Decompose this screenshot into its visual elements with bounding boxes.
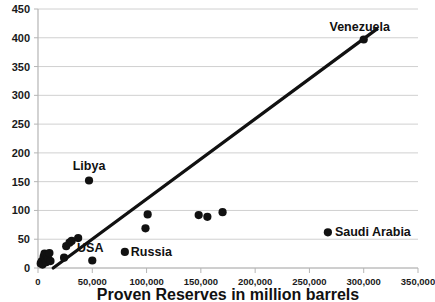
y-tick-label: 350 (12, 61, 30, 73)
data-point (324, 228, 332, 236)
chart-canvas: 050100150200250300350400450 050,000100,0… (0, 0, 435, 302)
point-label-saudi-arabia: Saudi Arabia (335, 225, 412, 239)
y-tick-label: 150 (12, 176, 30, 188)
x-axis-title: Proven Reserves in million barrels (97, 286, 359, 302)
data-point (45, 249, 53, 257)
y-tick-label: 0 (24, 262, 30, 274)
y-tick-label: 200 (12, 147, 30, 159)
x-axis-ticks (38, 268, 418, 273)
point-label-venezuela: Venezuela (329, 20, 390, 34)
x-tick-label: 0 (35, 276, 40, 287)
data-point (60, 254, 68, 262)
data-point (85, 176, 93, 184)
data-point (121, 248, 129, 256)
data-point (46, 257, 54, 265)
data-point (203, 213, 211, 221)
point-label-libya: Libya (73, 159, 107, 173)
y-tick-label: 300 (12, 89, 30, 101)
x-tick-label: 350,000 (401, 276, 435, 287)
y-tick-label: 400 (12, 32, 30, 44)
data-point (88, 256, 96, 264)
point-label-russia: Russia (131, 245, 173, 259)
scatter-chart: 050100150200250300350400450 050,000100,0… (0, 0, 435, 302)
data-point (144, 210, 152, 218)
y-tick-label: 250 (12, 118, 30, 130)
y-axis-tick-labels: 050100150200250300350400450 (12, 3, 30, 274)
data-point (218, 208, 226, 216)
data-points (37, 35, 368, 268)
y-tick-label: 50 (18, 233, 30, 245)
y-tick-label: 100 (12, 204, 30, 216)
data-point (195, 211, 203, 219)
data-point (141, 224, 149, 232)
data-point (360, 35, 368, 43)
point-label-usa: USA (77, 241, 103, 255)
y-tick-label: 450 (12, 3, 30, 15)
point-annotations: LibyaUSARussiaSaudi ArabiaVenezuela (73, 20, 412, 259)
